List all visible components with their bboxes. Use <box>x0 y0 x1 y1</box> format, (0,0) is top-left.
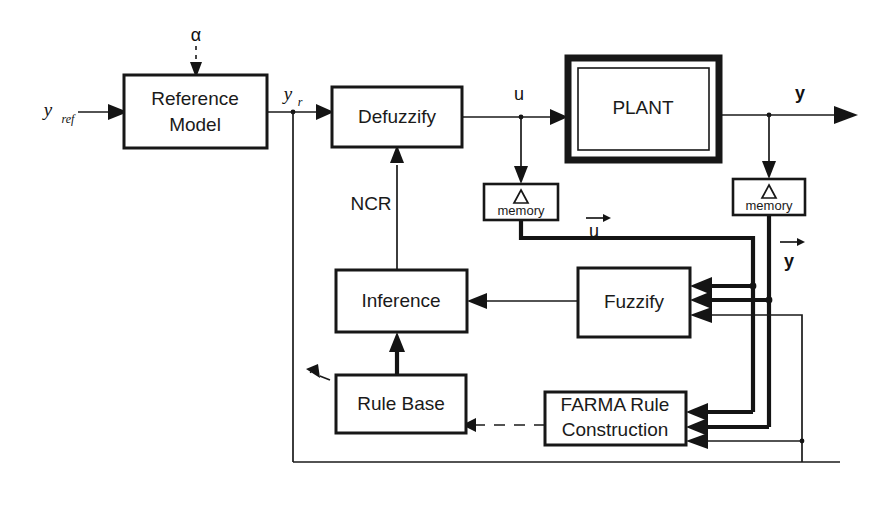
svg-text:ref: ref <box>62 112 77 126</box>
wire-fuzzify-to-inference <box>467 293 578 309</box>
reference-model-label-line1: Reference <box>151 88 239 109</box>
svg-text:y: y <box>784 251 794 271</box>
wire-y-vector-bus <box>686 215 772 436</box>
farma-rule-construction-block[interactable]: FARMA Rule Construction <box>545 392 686 445</box>
y-vector-label: y <box>780 238 805 271</box>
fuzzify-block[interactable]: Fuzzify <box>578 268 690 337</box>
wire-rule-base-adapt-arrow <box>306 364 330 380</box>
defuzzify-block[interactable]: Defuzzify <box>332 87 462 147</box>
wire-alpha-to-reference-model <box>190 46 202 78</box>
inference-label: Inference <box>361 290 440 311</box>
fuzzify-label: Fuzzify <box>604 291 665 312</box>
inference-block[interactable]: Inference <box>336 270 467 332</box>
plant-block[interactable]: PLANT <box>568 58 719 160</box>
wire-defuzzify-to-plant <box>462 109 568 125</box>
farma-label-line2: Construction <box>562 419 669 440</box>
y-memory-block[interactable]: memory <box>733 179 805 215</box>
u-memory-block[interactable]: memory <box>484 184 558 220</box>
svg-text:y: y <box>42 99 53 120</box>
defuzzify-label: Defuzzify <box>358 106 437 127</box>
u-memory-label: memory <box>498 203 545 218</box>
diagram-canvas: Reference Model Defuzzify PLANT memory m… <box>0 0 896 509</box>
block-diagram-figure: Reference Model Defuzzify PLANT memory m… <box>0 0 896 509</box>
wire-y-to-y-memory <box>762 115 776 179</box>
wire-yr-to-farma <box>686 433 802 449</box>
wire-rule-base-to-inference <box>389 332 405 375</box>
u-label: u <box>514 84 524 104</box>
farma-label-line1: FARMA Rule <box>561 394 670 415</box>
wire-plant-to-output <box>722 106 858 124</box>
alpha-label: α <box>191 25 201 45</box>
ncr-label: NCR <box>350 193 391 214</box>
y-r-label: y r <box>282 83 303 108</box>
rule-base-label: Rule Base <box>357 393 445 414</box>
svg-text:y: y <box>282 83 293 104</box>
wire-u-to-u-memory <box>514 117 528 184</box>
reference-model-label-line2: Model <box>169 114 221 135</box>
svg-text:r: r <box>298 95 303 109</box>
rule-base-block[interactable]: Rule Base <box>336 375 466 433</box>
wire-yref-to-reference-model <box>78 104 128 120</box>
y-memory-label: memory <box>746 198 793 213</box>
svg-text:u: u <box>589 221 599 241</box>
plant-label: PLANT <box>612 97 674 118</box>
wire-farma-to-rule-base-dashed <box>462 418 545 432</box>
y-ref-label: y ref <box>42 99 76 125</box>
reference-model-block[interactable]: Reference Model <box>124 75 267 148</box>
wire-ncr-inference-to-defuzzify <box>390 145 404 270</box>
y-output-label: y <box>795 83 805 103</box>
